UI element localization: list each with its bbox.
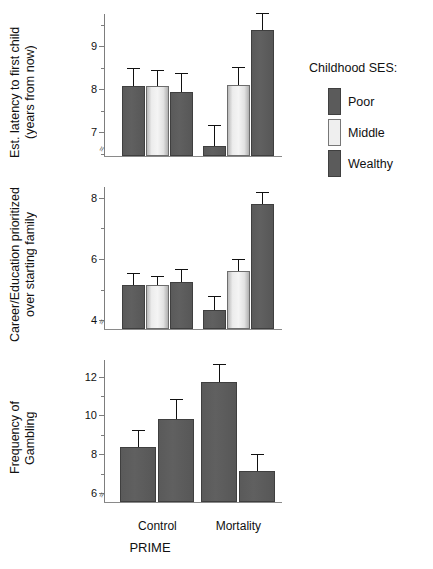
y-tick-minor	[101, 474, 104, 475]
bar	[122, 86, 145, 156]
y-tick-label: 8	[91, 192, 97, 203]
y-axis-title-panel-1: Est. latency to first child (years from …	[8, 14, 37, 170]
y-tick-minor	[101, 154, 104, 155]
error-bar-cap	[256, 192, 269, 193]
legend-swatch-middle	[328, 119, 341, 146]
bar	[120, 447, 156, 502]
error-bar-cap	[175, 73, 188, 74]
error-bar-cap	[251, 454, 264, 455]
error-bar-cap	[175, 269, 188, 270]
panel-career: Career/Education prioritized over starti…	[0, 187, 300, 345]
y-axis-line	[104, 187, 105, 329]
y-tick-label: 7	[91, 127, 97, 138]
error-bar-cap	[213, 364, 226, 365]
bar	[227, 85, 250, 156]
y-tick-label: 6	[91, 254, 97, 265]
x-tick-label-mortality: Mortality	[198, 519, 278, 533]
bar	[146, 285, 169, 329]
y-tick-major	[99, 132, 104, 133]
y-tick-minor	[101, 25, 104, 26]
y-tick-major	[99, 46, 104, 47]
legend-item-poor: Poor	[328, 88, 374, 115]
error-bar	[262, 192, 263, 204]
error-bar	[238, 67, 239, 85]
error-bar-cap	[256, 13, 269, 14]
y-tick-major	[99, 454, 104, 455]
legend: Childhood SES: Poor Middle Wealthy	[300, 0, 433, 200]
error-bar	[238, 259, 239, 271]
axis-break-icon: ≈	[97, 146, 107, 153]
plot-area-panel-2: 468≈	[104, 187, 282, 329]
bar	[146, 86, 169, 156]
legend-item-middle: Middle	[328, 119, 385, 146]
x-axis-title: PRIME	[0, 540, 300, 555]
y-tick-minor	[101, 435, 104, 436]
error-bar-cap	[232, 67, 245, 68]
x-axis-line	[104, 502, 282, 503]
y-tick-major	[99, 415, 104, 416]
error-bar	[133, 273, 134, 285]
bar	[201, 382, 237, 502]
error-bar-cap	[127, 273, 140, 274]
error-bar-cap	[170, 399, 183, 400]
y-tick-minor	[101, 396, 104, 397]
y-tick-major	[99, 377, 104, 378]
error-bar	[176, 399, 177, 418]
y-tick-label: 12	[85, 371, 97, 382]
y-tick-minor	[101, 228, 104, 229]
error-bar-cap	[232, 259, 245, 260]
error-bar	[219, 364, 220, 382]
y-tick-major	[99, 198, 104, 199]
legend-label-poor: Poor	[348, 95, 374, 109]
bar	[251, 30, 274, 156]
axis-break-icon: ≈	[97, 492, 107, 499]
x-axis-line	[104, 156, 282, 157]
legend-label-middle: Middle	[348, 126, 385, 140]
y-tick-major	[99, 259, 104, 260]
bar	[122, 285, 145, 329]
bar	[203, 146, 226, 156]
legend-swatch-wealthy	[328, 150, 341, 177]
axis-break-icon: ≈	[97, 319, 107, 326]
y-tick-major	[99, 89, 104, 90]
error-bar	[181, 73, 182, 92]
y-tick-label: 8	[91, 84, 97, 95]
error-bar	[214, 296, 215, 310]
bar	[158, 419, 194, 502]
error-bar	[214, 125, 215, 147]
y-tick-minor	[101, 290, 104, 291]
y-axis-line	[104, 14, 105, 156]
bar	[170, 92, 193, 156]
error-bar-cap	[132, 430, 145, 431]
error-bar-cap	[208, 296, 221, 297]
error-bar	[181, 269, 182, 282]
y-tick-label: 8	[91, 449, 97, 460]
error-bar-cap	[151, 276, 164, 277]
bar	[227, 271, 250, 329]
error-bar-cap	[127, 68, 140, 69]
y-axis-title-panel-3: Frequency of Gambling	[8, 360, 37, 516]
x-tick-label-control: Control	[117, 519, 197, 533]
y-axis-title-panel-2: Career/Education prioritized over starti…	[8, 187, 37, 343]
error-bar	[157, 70, 158, 87]
plot-area-panel-1: 789≈	[104, 14, 282, 156]
bar	[239, 471, 275, 502]
panel-gambling: Frequency of Gambling 681012≈	[0, 360, 300, 518]
panel-latency: Est. latency to first child (years from …	[0, 14, 300, 172]
bar	[170, 282, 193, 329]
error-bar	[138, 430, 139, 447]
legend-item-wealthy: Wealthy	[328, 150, 393, 177]
error-bar	[257, 454, 258, 472]
y-tick-label: 9	[91, 41, 97, 52]
y-tick-label: 10	[85, 410, 97, 421]
error-bar	[133, 68, 134, 86]
x-axis-line	[104, 329, 282, 330]
error-bar	[262, 13, 263, 30]
error-bar-cap	[151, 70, 164, 71]
y-tick-minor	[101, 111, 104, 112]
error-bar-cap	[208, 125, 221, 126]
legend-label-wealthy: Wealthy	[348, 157, 393, 171]
legend-title: Childhood SES:	[309, 61, 397, 75]
y-tick-minor	[101, 68, 104, 69]
legend-swatch-poor	[328, 88, 341, 115]
